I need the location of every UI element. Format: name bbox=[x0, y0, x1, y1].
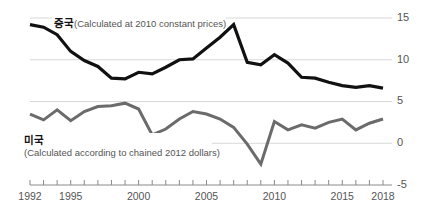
x-tick-label-2018: 2018 bbox=[371, 190, 395, 202]
x-tick-labels-group: 1992199520002005201020152018 bbox=[18, 190, 395, 202]
y-tick-labels-group: 151050-5 bbox=[397, 11, 409, 190]
y-tick-label-0: 0 bbox=[397, 136, 403, 148]
us-label-korean: 미국 bbox=[24, 134, 44, 146]
x-tick-label-2015: 2015 bbox=[331, 190, 355, 202]
chart-svg: 151050-5 1992199520002005201020152018 중국… bbox=[0, 0, 423, 219]
china-label-korean: 중국 bbox=[54, 17, 74, 29]
y-tick-label--5: -5 bbox=[397, 178, 407, 190]
gridlines-group bbox=[30, 18, 392, 143]
series-line-china bbox=[30, 25, 383, 88]
china-label-note: (Calculated at 2010 constant prices) bbox=[74, 18, 226, 29]
x-tick-label-2010: 2010 bbox=[263, 190, 287, 202]
china-series-annotation: 중국 (Calculated at 2010 constant prices) bbox=[52, 16, 226, 30]
x-axis-group bbox=[30, 180, 392, 185]
x-tick-label-1992: 1992 bbox=[18, 190, 42, 202]
x-tick-label-2000: 2000 bbox=[127, 190, 151, 202]
gdp-growth-chart: 151050-5 1992199520002005201020152018 중국… bbox=[0, 0, 423, 219]
y-tick-label-5: 5 bbox=[397, 94, 403, 106]
us-series-annotation: 미국 (Calculated according to chained 2012… bbox=[22, 133, 220, 159]
y-tick-label-10: 10 bbox=[397, 53, 409, 65]
y-tick-label-15: 15 bbox=[397, 11, 409, 23]
x-tick-label-2005: 2005 bbox=[195, 190, 219, 202]
x-tick-label-1995: 1995 bbox=[59, 190, 83, 202]
us-label-note: (Calculated according to chained 2012 do… bbox=[24, 147, 220, 158]
